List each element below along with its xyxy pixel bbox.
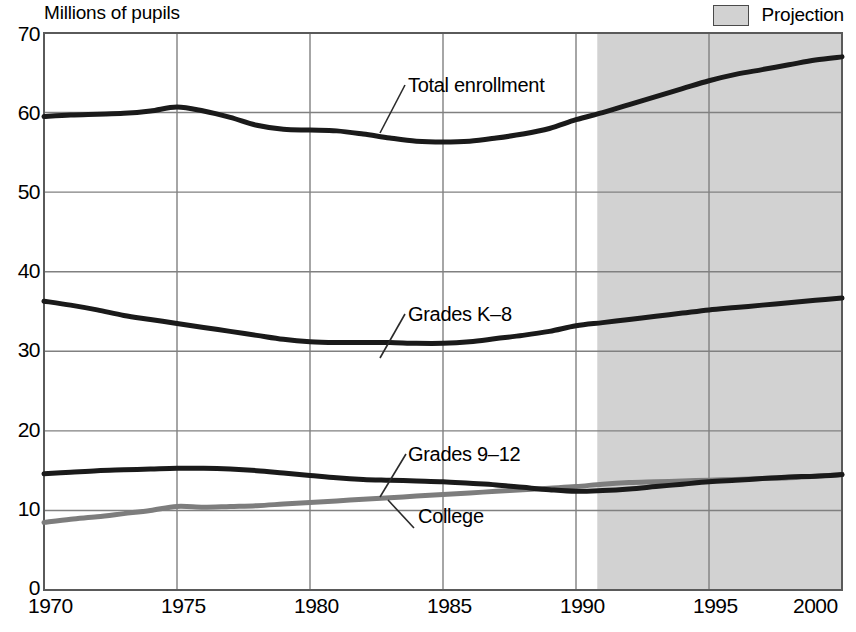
leader-line-total-enrollment: [380, 85, 405, 133]
series-label-total-enrollment: Total enrollment: [408, 74, 544, 97]
leader-line-college: [388, 500, 414, 528]
projection-shading: [597, 33, 842, 590]
series-label-grades-k8: Grades K–8: [408, 303, 512, 326]
series-label-college: College: [418, 505, 484, 528]
leader-line-grades-9-12: [380, 454, 406, 497]
enrollment-line-chart: Millions of pupils Projection 70 60 50 4…: [0, 0, 856, 632]
series-label-grades-9-12: Grades 9–12: [408, 443, 520, 466]
